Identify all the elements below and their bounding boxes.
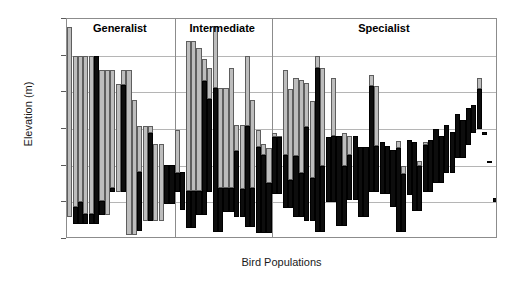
range-bar: [83, 56, 88, 225]
bar-segment-upper: [304, 83, 309, 127]
bar-segment-upper: [137, 126, 142, 171]
bar-segment-upper: [153, 144, 158, 222]
bar-segment-lower: [487, 161, 492, 163]
bar-segment-lower: [83, 214, 88, 224]
bar-segment-lower: [460, 120, 465, 158]
bar-segment-lower: [223, 188, 228, 212]
range-bar: [245, 56, 250, 228]
bar-segment-upper: [401, 166, 406, 175]
range-bar: [229, 68, 234, 212]
range-bar: [320, 68, 325, 232]
range-bar: [471, 105, 476, 133]
range-bar: [310, 101, 315, 221]
range-bar: [169, 165, 174, 204]
bar-segment-upper: [218, 88, 223, 188]
range-bar: [331, 78, 336, 202]
bar-segment-lower: [433, 129, 438, 183]
range-bar: [293, 78, 298, 217]
bar-segment-lower: [137, 172, 142, 231]
bar-segment-lower: [466, 108, 471, 145]
bar-segment-lower: [412, 142, 417, 211]
range-bar: [423, 142, 428, 192]
range-bar: [385, 146, 390, 194]
bar-segment-upper: [110, 70, 115, 188]
group-divider: [175, 19, 176, 237]
range-bar: [277, 136, 282, 193]
bar-segment-lower: [207, 99, 212, 192]
bar-segment-upper: [261, 144, 266, 155]
bar-segment-upper: [126, 70, 131, 234]
chart-figure: Elevation (m) Bird Populations 05001,000…: [0, 0, 519, 282]
bar-segment-upper: [175, 130, 180, 173]
range-bar: [401, 166, 406, 233]
range-bar: [363, 147, 368, 217]
range-bar: [444, 125, 449, 173]
bar-segment-upper: [132, 100, 137, 235]
bar-segment-upper: [293, 78, 298, 156]
range-bar: [89, 56, 94, 225]
group-label-generalist: Generalist: [93, 22, 147, 34]
bar-segment-lower: [369, 86, 374, 192]
range-bar: [67, 27, 72, 217]
range-bar: [326, 137, 331, 202]
range-bar: [460, 120, 465, 158]
range-bar: [466, 108, 471, 145]
y-axis-title: Elevation (m): [22, 34, 34, 194]
bar-segment-lower: [89, 214, 94, 224]
range-bar: [288, 89, 293, 209]
bar-segment-upper: [288, 89, 293, 181]
bar-segment-upper: [347, 136, 352, 155]
bar-segment-lower: [363, 147, 368, 217]
range-bar: [94, 56, 99, 225]
bar-segment-lower: [110, 188, 115, 192]
range-bar: [412, 142, 417, 211]
bar-segment-upper: [196, 48, 201, 190]
bar-segment-upper: [369, 75, 374, 87]
bar-segment-lower: [353, 136, 358, 200]
range-bar: [186, 41, 191, 228]
bar-segment-lower: [229, 188, 234, 212]
bar-segment-lower: [407, 140, 412, 195]
bar-segment-upper: [105, 70, 110, 214]
range-bar: [493, 198, 497, 202]
bar-segment-lower: [444, 125, 449, 173]
bar-segment-upper: [213, 26, 218, 88]
bar-segment-lower: [385, 146, 390, 194]
bar-segment-lower: [191, 191, 196, 228]
bar-segment-lower: [439, 136, 444, 183]
range-bar: [407, 140, 412, 195]
range-bar: [347, 136, 352, 200]
range-bar: [380, 142, 385, 193]
bar-segment-upper: [89, 56, 94, 214]
bar-segment-lower: [342, 166, 347, 226]
bar-segment-lower: [326, 137, 331, 202]
range-bar: [455, 114, 460, 158]
gridline: [67, 56, 496, 57]
range-bar: [256, 130, 261, 233]
bar-segment-lower: [336, 136, 341, 225]
range-bar: [132, 100, 137, 235]
range-bar: [439, 136, 444, 183]
bar-segment-upper: [121, 70, 126, 85]
bar-segment-upper: [202, 59, 207, 81]
range-bar: [121, 70, 126, 192]
range-bar: [218, 88, 223, 232]
range-bar: [433, 129, 438, 183]
bar-segment-lower: [94, 56, 99, 225]
bar-segment-lower: [73, 207, 78, 224]
bar-segment-upper: [256, 130, 261, 146]
bar-segment-upper: [186, 41, 191, 191]
bar-segment-lower: [417, 166, 422, 211]
range-bar: [358, 147, 363, 217]
bar-segment-upper: [83, 56, 88, 214]
bar-segment-lower: [455, 114, 460, 158]
range-bar: [207, 68, 212, 192]
range-bar: [353, 136, 358, 200]
bar-segment-upper: [191, 41, 196, 191]
bar-segment-lower: [390, 150, 395, 207]
bar-segment-upper: [477, 78, 482, 89]
bar-segment-lower: [482, 132, 487, 135]
bar-segment-upper: [396, 141, 401, 148]
range-bar: [110, 70, 115, 192]
bar-segment-lower: [288, 180, 293, 208]
